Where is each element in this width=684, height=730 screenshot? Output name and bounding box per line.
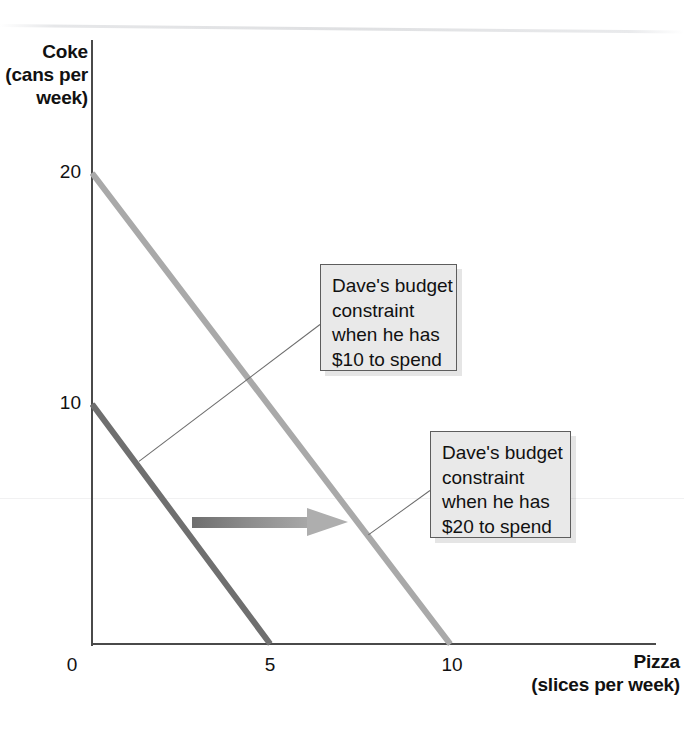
y-axis-title-line-3: per — [59, 64, 88, 85]
x-axis-title-line-2: (slices per week) — [452, 673, 680, 696]
page-edge-artifact — [0, 24, 684, 34]
y-axis-title: Coke (cans per week) — [0, 40, 88, 110]
x-tick-label-0: 0 — [52, 654, 92, 676]
callout-20-line-4: $20 to spend — [442, 515, 559, 540]
x-axis — [91, 643, 656, 645]
arrow-shaft — [192, 517, 311, 528]
callout-10-line-2: constraint — [332, 299, 445, 324]
y-axis-title-line-1: Coke — [42, 41, 88, 62]
y-axis-title-line-2: (cans — [5, 64, 54, 85]
x-axis-title: Pizza (slices per week) — [452, 650, 680, 696]
y-axis — [91, 40, 93, 646]
callout-10-line-4: $10 to spend — [332, 348, 445, 373]
callout-10-line-1: Dave's budget — [332, 274, 445, 299]
callout-20-dollars: Dave's budget constraint when he has $20… — [430, 431, 571, 538]
callout-20-line-1: Dave's budget — [442, 441, 559, 466]
x-tick-label-10: 10 — [430, 654, 474, 676]
y-tick-label-10: 10 — [26, 392, 81, 414]
x-tick-label-5: 5 — [250, 654, 290, 676]
budget-line-20-dollars — [90, 171, 453, 646]
y-tick-label-20: 20 — [26, 161, 81, 183]
arrow-head — [307, 508, 348, 536]
budget-constraint-figure: Coke (cans per week) Pizza (slices per w… — [0, 0, 684, 730]
x-axis-title-line-1: Pizza — [452, 650, 680, 673]
callout-10-dollars: Dave's budget constraint when he has $10… — [320, 264, 457, 371]
callout-20-line-3: when he has — [442, 490, 559, 515]
y-axis-title-line-4: week) — [36, 87, 88, 108]
budget-shift-arrow-icon — [192, 508, 348, 536]
leader-line-callout-20 — [368, 490, 430, 535]
callout-20-line-2: constraint — [442, 466, 559, 491]
callout-10-line-3: when he has — [332, 323, 445, 348]
